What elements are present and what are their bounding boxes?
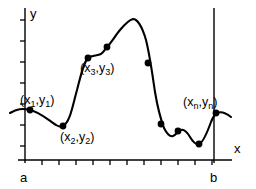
x-axis-ticks bbox=[42, 160, 212, 165]
data-point bbox=[175, 128, 182, 135]
interpolation-curve bbox=[10, 19, 231, 144]
interval-end-label-b: b bbox=[210, 170, 217, 185]
y-axis-ticks bbox=[20, 20, 25, 146]
interval-start-label-a: a bbox=[20, 170, 28, 185]
data-point bbox=[104, 44, 111, 51]
point-label-x1y1: (x1,y1) bbox=[20, 93, 54, 109]
point-label-xnyn: (xn,yn) bbox=[183, 95, 217, 111]
data-point bbox=[213, 110, 220, 117]
data-point bbox=[145, 60, 152, 67]
point-label-x3y3: (x3,y3) bbox=[80, 61, 114, 77]
x-axis-label: x bbox=[234, 141, 241, 156]
point-label-x2y2: (x2,y2) bbox=[60, 130, 94, 146]
data-point bbox=[196, 141, 203, 148]
interpolation-figure: y x a b (x1,y1) (x2,y2) (x3,y3) (xn,yn) bbox=[0, 0, 256, 189]
figure-canvas: y x a b (x1,y1) (x2,y2) (x3,y3) (xn,yn) bbox=[0, 0, 256, 189]
data-point bbox=[158, 121, 165, 128]
data-point bbox=[60, 123, 67, 130]
y-axis-label: y bbox=[30, 6, 37, 21]
